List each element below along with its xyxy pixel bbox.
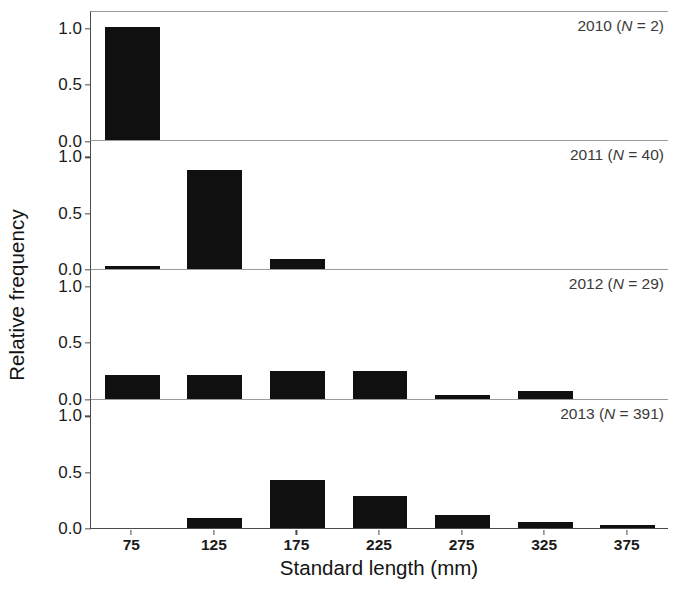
sample-size-value: = 2) [633, 17, 664, 34]
bar [105, 266, 160, 269]
panel-label-2011: 2011 (N = 40) [570, 146, 664, 164]
x-tick-mark [213, 530, 214, 535]
panel-label-2010: 2010 (N = 2) [577, 17, 664, 35]
panel-year: 2011 ( [570, 146, 613, 163]
y-tick-label: 0.5 [58, 333, 91, 353]
bar [435, 515, 490, 529]
panel-label-2012: 2012 (N = 29) [569, 275, 664, 293]
bar [270, 371, 325, 398]
bar [518, 391, 573, 399]
x-tick-mark [131, 530, 132, 535]
y-tick-label: 1.0 [58, 277, 91, 297]
bar [270, 480, 325, 528]
sample-size-symbol: N [613, 146, 624, 163]
y-tick-label: 0.5 [58, 463, 91, 483]
sample-size-value: = 40) [624, 146, 664, 163]
sample-size-symbol: N [604, 405, 615, 422]
x-tick-mark [461, 530, 462, 535]
bar [187, 518, 242, 528]
sample-size-symbol: N [621, 17, 632, 34]
x-tick-label: 225 [366, 536, 392, 554]
bar [105, 27, 160, 140]
x-tick-label: 125 [201, 536, 227, 554]
y-tick-label: 1.0 [58, 406, 91, 426]
bar [187, 170, 242, 269]
y-tick-label: 0.5 [58, 75, 91, 95]
histogram-figure: Relative frequency 0.00.51.02010 (N = 2)… [0, 0, 676, 590]
panel-year: 2012 ( [569, 275, 613, 292]
x-tick-label: 75 [123, 536, 140, 554]
x-axis-title: Standard length (mm) [90, 556, 668, 580]
x-tick-label: 375 [614, 536, 640, 554]
x-tick-label: 275 [449, 536, 475, 554]
x-tick-mark [544, 530, 545, 535]
panel-year: 2010 ( [577, 17, 621, 34]
x-tick-mark [296, 530, 297, 535]
panel-2010: 0.00.51.02010 (N = 2) [90, 11, 668, 141]
panel-label-2013: 2013 (N = 391) [560, 405, 664, 423]
sample-size-value: = 29) [624, 275, 664, 292]
bar [435, 395, 490, 398]
bar [270, 259, 325, 269]
x-tick-label: 325 [531, 536, 557, 554]
y-tick-label: 1.0 [58, 147, 91, 167]
panel-2013: 0.00.51.02013 (N = 391) [90, 400, 668, 530]
bar [353, 496, 408, 528]
bar [600, 525, 655, 528]
sample-size-symbol: N [613, 275, 624, 292]
y-tick-label: 0.0 [58, 519, 91, 539]
sample-size-value: = 391) [615, 405, 664, 422]
x-tick-mark [378, 530, 379, 535]
panel-2012: 0.00.51.02012 (N = 29) [90, 270, 668, 400]
y-axis-title: Relative frequency [0, 0, 34, 590]
y-tick-label: 0.5 [58, 204, 91, 224]
panel-stack: 0.00.51.02010 (N = 2)0.00.51.02011 (N = … [90, 11, 668, 529]
x-tick-label: 175 [283, 536, 309, 554]
bar [105, 375, 160, 399]
bar [518, 522, 573, 528]
x-axis-ticks: 75125175225275325375 [90, 530, 668, 556]
panel-year: 2013 ( [560, 405, 604, 422]
bar [187, 375, 242, 399]
y-tick-label: 1.0 [58, 19, 91, 39]
bar [353, 371, 408, 398]
x-tick-mark [626, 530, 627, 535]
panel-2011: 0.00.51.02011 (N = 40) [90, 141, 668, 271]
